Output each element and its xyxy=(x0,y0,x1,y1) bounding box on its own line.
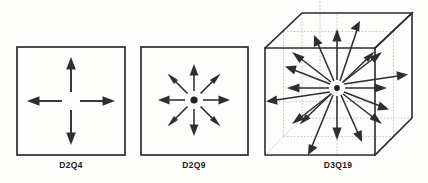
d2q9-label: D2Q9 xyxy=(182,160,205,170)
d3q19-arrow-down-left xyxy=(292,94,331,124)
d2q4-arrow-left xyxy=(27,96,62,106)
d2q9-center-dot xyxy=(190,96,197,103)
d3q19-arrow-right xyxy=(345,83,387,92)
d3q19-arrow-left xyxy=(287,83,329,92)
d3q19-arrow-up-front xyxy=(314,35,334,81)
d3q19-arrow-back-left xyxy=(285,66,330,85)
d3q19-center-dot xyxy=(334,85,340,91)
lattice-velocity-sets-diagram: D2Q4 xyxy=(0,0,428,183)
d3q19-label: D3Q19 xyxy=(324,160,352,170)
d2q9-arrow-down-left xyxy=(168,107,188,127)
figure-canvas: D2Q4 xyxy=(0,0,428,183)
d2q4-arrow-down xyxy=(66,110,76,145)
d2q9-arrow-left xyxy=(158,96,185,105)
d3q19-arrow-down-back xyxy=(341,95,362,142)
d2q9-arrow-down xyxy=(190,109,199,136)
d2q9-arrow-up xyxy=(190,64,199,91)
d2q9-arrow-up-right xyxy=(201,74,221,94)
d2q9-arrow-up-left xyxy=(168,74,188,94)
panel-d2q9: D2Q9 xyxy=(141,47,248,170)
d2q9-arrow-down-right xyxy=(201,107,221,127)
d2q4-arrow-up xyxy=(66,57,76,92)
d2q4-arrow-right xyxy=(80,96,115,106)
panel-d2q4: D2Q4 xyxy=(17,47,125,170)
d2q9-arrow-right xyxy=(203,96,230,105)
d3q19-arrow-up xyxy=(332,29,341,80)
d2q4-label: D2Q4 xyxy=(59,160,82,170)
panel-d3q19: D3Q19 xyxy=(265,0,412,170)
